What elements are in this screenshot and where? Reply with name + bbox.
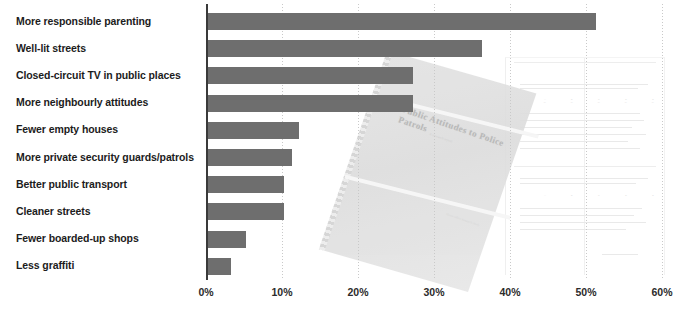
bar — [208, 231, 246, 248]
x-tick-label: 0% — [198, 286, 213, 298]
bar-row — [208, 231, 246, 248]
bar-row — [208, 149, 292, 166]
x-tick-label: 30% — [423, 286, 444, 298]
bar-row — [208, 203, 284, 220]
bar-chart: ABCDE %%%%% ABCDE Pu — [0, 0, 681, 316]
bar — [208, 122, 299, 139]
category-label: More private security guards/patrols — [16, 151, 202, 163]
bar-row — [208, 176, 284, 193]
category-label: Closed-circuit TV in public places — [16, 69, 202, 81]
bar-row — [208, 258, 231, 275]
x-tick-label: 20% — [347, 286, 368, 298]
bar-row — [208, 67, 413, 84]
x-tick-label: 50% — [575, 286, 596, 298]
category-label: Fewer empty houses — [16, 123, 202, 135]
gridline-40% — [510, 4, 511, 280]
bar — [208, 40, 482, 57]
bar-row — [208, 122, 299, 139]
x-tick-label: 10% — [271, 286, 292, 298]
bar — [208, 258, 231, 275]
x-tick-label: 40% — [499, 286, 520, 298]
bar-row — [208, 95, 413, 112]
plot-area — [206, 4, 661, 280]
category-label: Well-lit streets — [16, 42, 202, 54]
gridline-50% — [586, 4, 587, 280]
bar-row — [208, 13, 596, 30]
bar-row — [208, 40, 482, 57]
category-label: More responsible parenting — [16, 15, 202, 27]
category-label: Fewer boarded-up shops — [16, 232, 202, 244]
bar — [208, 203, 284, 220]
bar — [208, 176, 284, 193]
category-label: Less graffiti — [16, 259, 202, 271]
bar — [208, 149, 292, 166]
category-label: More neighbourly attitudes — [16, 96, 202, 108]
gridline-60% — [662, 4, 663, 280]
category-label: Cleaner streets — [16, 205, 202, 217]
bar — [208, 95, 413, 112]
bar — [208, 13, 596, 30]
x-tick-label: 60% — [651, 286, 672, 298]
category-label: Better public transport — [16, 178, 202, 190]
bar — [208, 67, 413, 84]
